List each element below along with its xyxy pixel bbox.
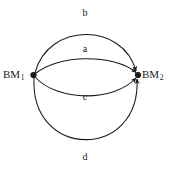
node-label-bm1-subscript: 1: [20, 73, 24, 82]
graph-svg: [0, 0, 173, 172]
node-label-bm2-text: BM: [142, 68, 159, 80]
node-label-bm2-subscript: 2: [159, 73, 163, 82]
edge-label-a: a: [77, 44, 93, 54]
node-label-bm2: BM2: [142, 69, 163, 80]
node-bm2[interactable]: [135, 72, 141, 78]
edge-label-d: d: [77, 152, 93, 162]
edge-label-c: c: [77, 92, 93, 102]
edge-label-b: b: [77, 8, 93, 18]
node-label-bm1-text: BM: [3, 68, 20, 80]
edge-path-a: [35, 59, 136, 74]
node-bm1[interactable]: [30, 72, 36, 78]
diagram-canvas: BM1 BM2 b a c d: [0, 0, 173, 172]
node-label-bm1: BM1: [3, 69, 24, 80]
